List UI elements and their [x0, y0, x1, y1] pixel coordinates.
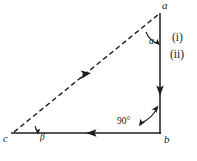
vertex-label-a: a — [162, 0, 168, 11]
angle-label-beta: β — [39, 132, 45, 142]
note-label-ii: (ii) — [170, 48, 184, 61]
figure-container: a b c α β 90° (i) (ii) — [0, 0, 197, 161]
note-label-i: (i) — [172, 31, 183, 44]
angle-arc-right-arrow-start-icon — [139, 119, 146, 127]
triangle-diagram: a b c α β 90° (i) (ii) — [0, 0, 197, 161]
angle-label-alpha: α — [149, 36, 155, 46]
vertex-label-b: b — [164, 133, 170, 145]
angle-arc-right — [141, 108, 157, 123]
hypotenuse-direction-arrow-icon — [81, 71, 92, 80]
vertex-label-c: c — [3, 132, 8, 144]
angle-label-right: 90° — [117, 116, 131, 126]
